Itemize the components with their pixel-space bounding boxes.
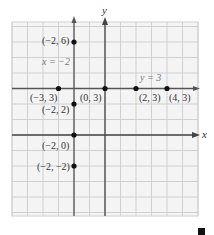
point-label: (0, 3) [80,92,102,104]
y-axis-arrow-icon [102,17,108,25]
point-dot [133,86,138,91]
end-mark-square-icon [198,228,205,235]
point-dot [102,86,107,91]
line-label-x-eq-neg2: x = −2 [41,56,70,67]
point-dot [71,39,76,44]
point-label: (−2, 2) [42,104,69,116]
point-label: (−3, 3) [30,92,57,104]
y-axis-label: y [101,4,107,16]
coordinate-plane: x y x = −2 y = 3 (−2, 6) (−2, 2) (−2, 0)… [0,0,214,235]
point-dot [71,163,76,168]
arrow-up-icon [72,16,77,23]
point-label: (2, 3) [139,92,161,104]
point-dot [56,86,61,91]
point-dot [164,86,169,91]
point-label: (−2, 0) [42,140,69,152]
point-label: (−2, −2) [37,161,70,173]
point-dot [71,132,76,137]
x-axis-label: x [201,128,207,140]
point-label: (−2, 6) [42,35,69,47]
line-label-y-eq-3: y = 3 [139,72,161,83]
point-label: (4, 3) [169,92,191,104]
point-dot [71,101,76,106]
